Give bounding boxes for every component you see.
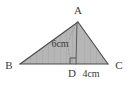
vertex-label-D: D [68, 67, 76, 79]
triangle-figure: A B C D 6cm 4cm [0, 0, 135, 89]
base-measure-label: 4cm [82, 68, 99, 79]
vertex-label-A: A [74, 4, 82, 16]
vertex-label-B: B [5, 59, 12, 71]
vertex-label-C: C [115, 59, 122, 71]
altitude-measure-label: 6cm [51, 38, 68, 49]
geometry-diagram: A B C D 6cm 4cm [0, 0, 135, 89]
